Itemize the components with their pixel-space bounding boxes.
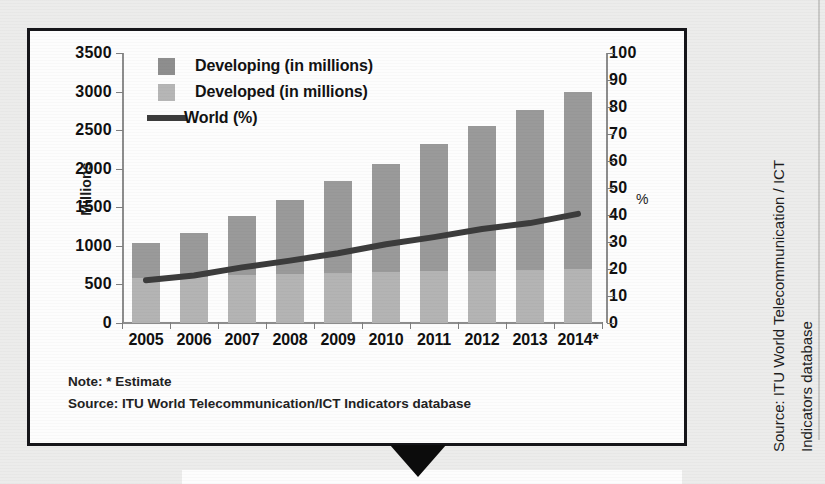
pointer-triangle-icon (390, 445, 446, 477)
x-tick-label: 2009 (321, 331, 356, 349)
tickmark-right (607, 107, 614, 108)
y-tick-left-3000: 3000 (75, 83, 112, 101)
x-tick-label: 2012 (465, 331, 500, 349)
tickmark-right (607, 323, 614, 324)
legend-item: World (%) (158, 105, 373, 131)
y-tick-left-2000: 2000 (75, 160, 112, 178)
tickmark-x (266, 322, 267, 329)
world-percent-polyline (146, 214, 578, 280)
chart-legend: Developing (in millions)Developed (in mi… (158, 53, 373, 131)
x-tick-label: 2013 (513, 331, 548, 349)
tickmark-x (506, 322, 507, 329)
tickmark-right (607, 296, 614, 297)
y-tick-left-0: 0 (103, 314, 112, 332)
tickmark-x (602, 322, 603, 329)
x-tick-label: 2008 (273, 331, 308, 349)
side-source-line-1: Source: ITU World Telecommunication / IC… (770, 0, 790, 452)
x-tick-label: 2011 (417, 331, 451, 349)
tickmark-left (116, 246, 123, 247)
tickmark-left (116, 207, 123, 208)
tickmark-left (116, 284, 123, 285)
y-axis-title-right: % (636, 191, 648, 207)
tickmark-x (218, 322, 219, 329)
y-tick-left-3500: 3500 (75, 44, 112, 62)
y-axis-title-left: Millions (78, 129, 94, 249)
chart-plot-wrapper: Millions % 3500300025002000150010005000 … (30, 31, 684, 443)
legend-item: Developed (in millions) (158, 79, 373, 105)
footnote-note: Note: * Estimate (68, 371, 471, 393)
tickmark-left (116, 169, 123, 170)
tickmark-x (170, 322, 171, 329)
tickmark-right (607, 215, 614, 216)
y-tick-left-2500: 2500 (75, 121, 112, 139)
legend-label: World (%) (184, 109, 257, 127)
x-tick-label: 2006 (177, 331, 212, 349)
x-axis-tick-labels: 2005200620072008200920102011201220132014… (122, 331, 602, 357)
tickmark-x (554, 322, 555, 329)
tickmark-right (607, 269, 614, 270)
page-right-rule (818, 0, 820, 440)
tickmark-right (607, 161, 614, 162)
tickmark-right (607, 80, 614, 81)
tickmark-x (410, 322, 411, 329)
x-tick-label: 2010 (369, 331, 404, 349)
tickmark-left (116, 130, 123, 131)
tickmark-right (607, 188, 614, 189)
tickmark-right (607, 53, 614, 54)
y-tick-left-1500: 1500 (75, 198, 112, 216)
tickmark-x (122, 322, 123, 329)
tickmark-right (607, 134, 614, 135)
tickmark-x (314, 322, 315, 329)
tickmark-x (362, 322, 363, 329)
legend-label: Developed (in millions) (195, 83, 368, 101)
footnote-source: Source: ITU World Telecommunication/ICT … (68, 393, 471, 415)
legend-swatch-line-icon (147, 115, 187, 121)
page-root: Millions % 3500300025002000150010005000 … (0, 0, 825, 484)
tickmark-right (607, 242, 614, 243)
tickmark-x (458, 322, 459, 329)
y-tick-left-500: 500 (84, 275, 112, 293)
y-tick-left-1000: 1000 (75, 237, 112, 255)
legend-swatch-developing-icon (158, 58, 175, 75)
x-tick-label: 2014* (558, 331, 599, 349)
x-tick-label: 2005 (129, 331, 164, 349)
legend-label: Developing (in millions) (195, 57, 373, 75)
tickmark-left (116, 92, 123, 93)
chart-footnotes: Note: * Estimate Source: ITU World Telec… (68, 371, 471, 415)
side-source-line-2: Indicators database (798, 0, 818, 452)
legend-swatch-developed-icon (158, 84, 175, 101)
legend-item: Developing (in millions) (158, 53, 373, 79)
tickmark-left (116, 53, 123, 54)
chart-figure: Millions % 3500300025002000150010005000 … (27, 28, 687, 446)
x-tick-label: 2007 (225, 331, 260, 349)
